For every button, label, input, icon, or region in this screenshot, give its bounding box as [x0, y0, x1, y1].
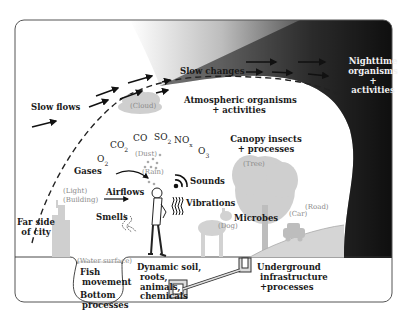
sublabel-road: (Road)	[305, 203, 329, 211]
bottom-line-2: processes	[80, 301, 128, 311]
label-sounds: Sounds	[190, 177, 225, 187]
chem-co2: CO2	[110, 140, 128, 152]
sublabel-water-surface: (Water surface)	[77, 257, 132, 265]
label-atmospheric: Atmospheric organisms + activities	[184, 96, 294, 116]
soil-line-4: chemicals	[137, 292, 201, 302]
atmospheric-line-2: + activities	[184, 106, 294, 116]
sublabel-cloud: (Cloud)	[130, 102, 156, 110]
chem-o3: O3	[198, 146, 209, 158]
far-side-line-2: of city	[16, 228, 56, 238]
chem-nox: NOx	[174, 135, 193, 147]
sublabel-dust: (Dust)	[135, 150, 157, 158]
label-dynamic-soil: Dynamic soil, roots, animals, chemicals	[137, 263, 201, 302]
label-bottom-processes: Bottom processes	[80, 291, 128, 311]
label-nighttime: Nighttime organisms + activities	[345, 57, 401, 96]
sounds-icon	[175, 175, 188, 188]
label-smells: Smells	[96, 213, 128, 223]
chem-co: CO	[133, 133, 147, 143]
dog-icon	[198, 208, 232, 257]
chem-o2: O2	[97, 154, 108, 166]
sublabel-car: (Car)	[289, 210, 307, 218]
label-underground-infrastructure: Underground infrastructure +processes	[257, 263, 328, 292]
sublabel-tree: (Tree)	[243, 160, 265, 168]
fish-line-2: movement	[80, 278, 132, 288]
vibrations-icon	[172, 197, 183, 215]
underground-line-3: +processes	[257, 283, 328, 293]
sublabel-light: (Light)	[63, 187, 87, 195]
chem-so2: SO2	[154, 132, 171, 144]
label-far-side-of-city: Far side of city	[16, 218, 56, 238]
label-gases: Gases	[74, 167, 102, 177]
label-canopy: Canopy insects + processes	[226, 135, 306, 155]
person-icon	[148, 188, 166, 256]
canopy-line-2: + processes	[226, 145, 306, 155]
diagram-graphics	[0, 0, 408, 322]
label-vibrations: Vibrations	[186, 199, 235, 209]
label-slow-flows: Slow flows	[31, 103, 80, 113]
label-airflows: Airflows	[106, 188, 144, 198]
label-microbes: Microbes	[234, 214, 278, 224]
sublabel-building: (Building)	[63, 196, 98, 204]
label-slow-changes: Slow changes	[180, 67, 245, 77]
label-fish-movement: Fish movement	[80, 268, 132, 288]
nighttime-line-4: activities	[345, 86, 401, 96]
urban-ecosystem-diagram: Slow flows Slow changes Nighttime organi…	[0, 0, 408, 322]
sublabel-rain: (Rain)	[142, 168, 164, 176]
